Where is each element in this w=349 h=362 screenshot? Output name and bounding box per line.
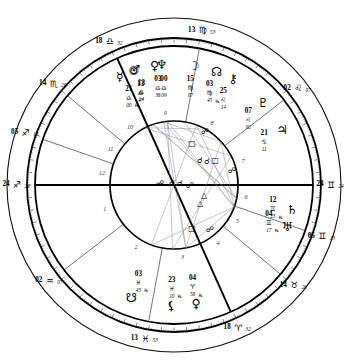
jupiter-degree: 21 xyxy=(261,129,269,137)
cusp-degree-9: 13 xyxy=(188,26,196,34)
degree-tick xyxy=(70,81,73,84)
planet-lilith: ⚸23♓10℞ xyxy=(167,276,182,313)
cusp-degree-2: 02 xyxy=(35,276,43,284)
house-cusp-line-3 xyxy=(149,248,163,322)
house-number-2: 2 xyxy=(134,243,137,250)
planet-south_node: ☋03♓45℞ xyxy=(126,270,149,306)
uranus-retrograde-icon: ℞ xyxy=(275,228,279,233)
degree-tick xyxy=(256,302,259,306)
house-cusp-line-11 xyxy=(67,96,124,144)
aspect-glyph-1: □ xyxy=(188,139,196,148)
degree-tick xyxy=(234,52,236,56)
degree-tick xyxy=(303,123,307,125)
pluto-degree: 07 xyxy=(245,107,253,115)
north_node-glyph-icon: ☊ xyxy=(211,64,222,79)
cusp-minute-7: 24 xyxy=(338,183,344,189)
aspect-glyph-4: □ xyxy=(211,156,219,165)
cusp-minute-6: 13 xyxy=(330,235,336,241)
lilith-retrograde-icon: ℞ xyxy=(178,294,182,299)
aspect-glyph-9: ☍ xyxy=(186,181,194,190)
lilith-sign-glyph: ♓ xyxy=(169,285,175,293)
degree-tick xyxy=(291,267,295,270)
degree-tick xyxy=(90,302,93,306)
degree-tick xyxy=(47,112,51,114)
degree-tick xyxy=(234,314,236,318)
cusp-sign-glyph-libra: ♎ xyxy=(106,36,114,46)
cusp-sign-glyph-aries: ♈ xyxy=(234,323,242,333)
lilith-degree: 23 xyxy=(168,276,176,284)
aspect-glyph-11: △ xyxy=(197,199,204,208)
cusp-degree-7: 24 xyxy=(316,180,324,188)
south_node-sign-glyph: ♓ xyxy=(136,279,142,287)
south_node-minute: 45 xyxy=(136,287,142,293)
degree-tick xyxy=(80,72,83,75)
uranus-sign-glyph: ♊ xyxy=(266,219,272,227)
cusp-sign-glyph-virgo: ♍ xyxy=(199,25,207,35)
degree-tick xyxy=(303,245,307,247)
house-cusp-line-8 xyxy=(225,100,284,146)
jupiter-minute: 11 xyxy=(262,146,267,152)
degree-tick xyxy=(101,308,103,312)
aspect-glyph-3: ☌ xyxy=(204,157,209,166)
degree-tick xyxy=(47,256,51,258)
mars-sign-glyph: ♎ xyxy=(139,88,145,96)
south_node-retrograde-icon: ℞ xyxy=(144,288,148,293)
cusp-label-house-12: 05♐13 xyxy=(11,128,39,138)
cusp-minute-8: 07 xyxy=(306,87,312,93)
aspect-glyph-12: □ xyxy=(188,224,196,233)
aspect-glyph-0: ☍ xyxy=(201,127,209,136)
cusp-sign-glyph-sagittarius: ♐ xyxy=(22,128,30,138)
cusp-degree-11: 14 xyxy=(39,79,47,87)
cusp-degree-1: 24 xyxy=(2,180,10,188)
south_node-degree: 03 xyxy=(135,270,143,278)
house-cusp-line-5 xyxy=(223,226,280,274)
degree-tick xyxy=(283,277,286,280)
cusp-minute-4: 32 xyxy=(246,326,252,332)
venus-minute: 38 xyxy=(155,92,161,98)
pluto-sign-glyph: ♌ xyxy=(245,116,251,124)
neptune-minute: 09 xyxy=(161,92,167,98)
cusp-degree-8: 02 xyxy=(284,84,292,92)
house-number-9: 9 xyxy=(164,109,167,116)
neptune-degree: 00 xyxy=(160,75,168,83)
degree-tick xyxy=(245,308,247,312)
saturn-glyph-icon: ♄ xyxy=(287,202,298,217)
mars-minute: 14 xyxy=(139,96,145,102)
degree-tick xyxy=(256,65,259,69)
cusp-degree-6: 05 xyxy=(308,232,316,240)
planet-moon: ☽15♍07 xyxy=(187,58,199,99)
cusp-sign-glyph-sagittarius: ♐ xyxy=(13,180,21,190)
house-number-10: 10 xyxy=(127,123,134,130)
degree-tick xyxy=(112,314,114,318)
cusp-minute-2: 07 xyxy=(57,279,63,285)
neptune-sign-glyph: ♎ xyxy=(161,84,167,92)
moon-degree: 15 xyxy=(187,75,195,83)
planet-pluto: ♇07♌02 xyxy=(245,95,269,130)
house-number-7: 7 xyxy=(242,157,246,164)
moon-sign-glyph: ♍ xyxy=(187,84,193,92)
cusp-minute-9: 53 xyxy=(210,29,216,35)
cusp-minute-12: 13 xyxy=(33,131,39,137)
mercury-degree: 21 xyxy=(125,85,133,93)
cusp-sign-glyph-scorpio: ♏ xyxy=(50,79,58,89)
chiron-minute: 14 xyxy=(221,104,227,110)
aspect-glyph-6: ☍ xyxy=(156,179,164,188)
cusp-label-house-6: 05♊13 xyxy=(308,231,336,241)
venus_alt-retrograde-icon: ℞ xyxy=(198,293,202,298)
degree-tick xyxy=(275,81,278,84)
venus_alt-minute: 58 xyxy=(190,291,196,297)
degree-tick xyxy=(101,58,103,62)
degree-tick xyxy=(54,101,58,104)
chiron-sign-glyph: ♌ xyxy=(220,96,226,104)
degree-tick xyxy=(245,58,247,62)
cusp-sign-glyph-pisces: ♓ xyxy=(141,334,149,344)
lilith-minute: 10 xyxy=(169,293,175,299)
cusp-label-house-10: 18♎32 xyxy=(95,36,123,46)
mars-degree: 13 xyxy=(138,79,146,87)
north_node-sign-glyph: ♍ xyxy=(207,89,213,97)
mercury-retrograde-icon: ℞ xyxy=(135,103,139,108)
pluto-glyph-icon: ♇ xyxy=(257,95,268,110)
uranus-glyph-icon: ♅ xyxy=(282,219,293,234)
house-number-5: 5 xyxy=(236,217,239,224)
mercury-glyph-icon: ☿ xyxy=(116,69,124,84)
